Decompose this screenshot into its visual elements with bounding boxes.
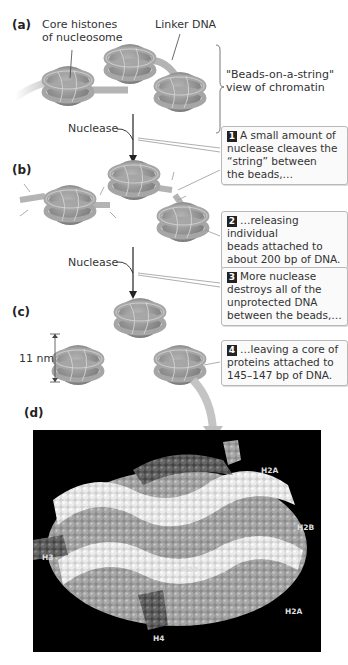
callout-text: about 200 bp of DNA. — [227, 253, 340, 265]
histone-label-h2a-lower: H2A — [285, 607, 302, 616]
callout-text: “string” between — [227, 155, 317, 167]
callout-text: beads attached to — [227, 240, 323, 252]
curved-arrow — [193, 380, 213, 432]
callout-text: 145–147 bp of DNA. — [227, 369, 332, 381]
callout-text: the beads,… — [227, 168, 293, 180]
callout-text: A small amount of — [240, 129, 336, 141]
nucleosome-bead — [110, 160, 158, 200]
nucleosome-bead — [44, 66, 92, 106]
histone-label-h2b-center: H2B — [181, 565, 198, 574]
nucleosome-bead — [159, 202, 207, 242]
callout-text: …releasing individual — [227, 214, 299, 239]
linker-dna-label: Linker DNA — [155, 18, 216, 31]
nucleosome-bead — [46, 185, 94, 225]
core-histones-label: Core histones of nucleosome — [42, 18, 123, 44]
callout-text: proteins attached to — [227, 356, 334, 368]
histone-label-h4: H4 — [153, 634, 165, 643]
callout-step-3: 3More nuclease destroys all of the unpro… — [221, 267, 348, 326]
callout-step-4: 4…leaving a core of proteins attached to… — [221, 340, 348, 386]
panel-a-label: (a) — [12, 18, 31, 32]
callout-text: nuclease cleaves the — [227, 142, 337, 154]
panel-d-label: (d) — [24, 406, 44, 420]
nucleosome-bead — [54, 345, 102, 385]
histone-label-h2b: H2B — [297, 523, 314, 532]
callout-text: unprotected DNA — [227, 296, 318, 308]
callout-text: …leaving a core of — [240, 343, 338, 355]
callout-step-2: 2…releasing individual beads attached to… — [221, 211, 348, 270]
panel-b-label: (b) — [12, 163, 32, 177]
beads-on-string-label: "Beads-on-a-string" view of chromatin — [226, 68, 334, 94]
nucleosome-molecular-model: H2A H2B H3 H2B H2A H4 — [33, 430, 321, 652]
callout-text: destroys all of the — [227, 283, 322, 295]
nuclease-label-1: Nuclease — [68, 122, 118, 135]
step-marker: 3 — [227, 272, 237, 283]
nuclease-label-2: Nuclease — [68, 256, 118, 269]
space-filling-model — [33, 430, 321, 652]
core-histones-line-2: of nucleosome — [42, 31, 123, 44]
core-histones-line-1: Core histones — [42, 18, 123, 31]
bracket — [216, 45, 224, 133]
step-marker: 2 — [227, 216, 237, 227]
panel-c-label: (c) — [12, 305, 30, 319]
step-marker: 4 — [227, 345, 237, 356]
step-marker: 1 — [227, 131, 237, 142]
nucleosome-bead — [106, 44, 154, 84]
bracket-line-2: view of chromatin — [226, 81, 334, 94]
callout-step-1: 1A small amount of nuclease cleaves the … — [221, 126, 348, 185]
histone-label-h2a: H2A — [261, 466, 278, 475]
callout-text: between the beads,… — [227, 309, 342, 321]
nucleosome-bead — [156, 72, 204, 112]
histone-label-h3: H3 — [42, 553, 54, 562]
scale-label: 11 nm — [19, 352, 54, 365]
nucleosome-bead — [116, 298, 164, 338]
bracket-line-1: "Beads-on-a-string" — [226, 68, 334, 81]
callout-text: More nuclease — [240, 270, 316, 282]
